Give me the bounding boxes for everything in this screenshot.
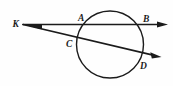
point-label-c: C xyxy=(66,39,73,49)
ray-k-a-b-arrowhead-icon xyxy=(157,21,168,27)
geometry-diagram: K A B C D xyxy=(0,0,173,86)
point-label-k: K xyxy=(12,19,20,29)
point-label-a: A xyxy=(77,13,84,23)
point-label-b: B xyxy=(142,14,149,24)
ray-k-c-d-line xyxy=(23,25,153,56)
ray-k-c-d-arrowhead-icon xyxy=(150,52,161,58)
diagram-canvas: K A B C D xyxy=(0,0,173,86)
point-label-d: D xyxy=(139,61,147,71)
vertex-wedge-k xyxy=(23,25,42,30)
